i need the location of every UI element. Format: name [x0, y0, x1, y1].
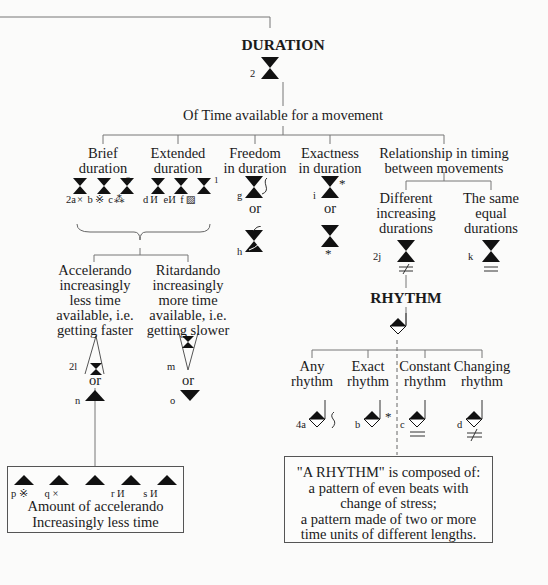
brief-letters: 2a× b※ c⁂ [66, 194, 125, 205]
triangle-row-icon [14, 474, 179, 486]
rhythm-title: RHYTHM [356, 289, 456, 307]
accelerando-or: or [80, 372, 110, 389]
changing-rhythm-letter: d [457, 419, 462, 430]
hourglass-exactness-icon [321, 176, 339, 198]
triangle-up-icon [85, 389, 105, 401]
accelerando-letter-bottom: n [75, 395, 80, 406]
rhythm-changing-icon [465, 400, 485, 442]
exact-asterisk-icon: * [385, 411, 392, 422]
exactness-or: or [315, 200, 345, 217]
ritardando-or: or [173, 372, 203, 389]
category-relationship-label: Relationship in timingbetween movements [374, 146, 514, 176]
same-letter: k [468, 251, 473, 262]
accelerando-box-text: Amount of accelerando Increasingly less … [7, 499, 184, 530]
hourglass-freedom-h-icon [245, 226, 267, 252]
category-freedom-label: Freedomin duration [215, 146, 295, 176]
rhythm-any-icon [308, 400, 342, 430]
rhythm-exact-icon [363, 400, 383, 430]
hourglass-row-icon [73, 178, 213, 194]
hourglass-equal-icon [481, 240, 501, 276]
time-available-label: Of Time available for a movement [170, 108, 396, 123]
triangle-down-icon [180, 390, 200, 402]
hourglass-icon [261, 57, 279, 79]
category-exactness-label: Exactnessin duration [290, 146, 370, 176]
duration-title: DURATION [233, 36, 333, 54]
rhythm-any-label: Anyrhythm [282, 359, 342, 389]
different-letter: 2j [373, 251, 381, 262]
hourglass-not-equal-icon [396, 240, 416, 276]
ritardando-letter-bottom: o [170, 395, 175, 406]
constant-rhythm-letter: c [400, 419, 405, 430]
rhythm-definition-text: "A RHYTHM" is composed of: a pattern of … [284, 465, 493, 543]
accelerando-label: Accelerandoincreasingly less timeavailab… [45, 263, 145, 338]
rhythm-constant-icon [408, 400, 428, 440]
ritardando-letter-top: m [167, 361, 175, 372]
hourglass-freedom-g-icon [245, 176, 269, 198]
hourglass-exactness-alt-icon [321, 225, 339, 247]
small-hourglass-ritardando-icon [182, 336, 194, 348]
same-durations-label: The same equal durations [451, 191, 531, 236]
rhythm-changing-label: Changingrhythm [448, 359, 516, 389]
exact-rhythm-letter: b [355, 419, 360, 430]
rhythm-diamond-icon [389, 313, 409, 339]
extended-superscript: 1 [214, 175, 219, 186]
freedom-or: or [240, 200, 270, 217]
rhythm-constant-label: Constantrhythm [395, 359, 455, 389]
brief-superscript: 2 [126, 175, 131, 186]
asterisk-icon: * [339, 178, 346, 189]
different-durations-label: Different increasing durations [366, 191, 446, 236]
asterisk-below-icon: * [325, 248, 332, 259]
duration-symbol-label: 2 [250, 68, 255, 79]
category-extended-label: Extendedduration [138, 146, 218, 176]
accelerando-letter-top: 2l [69, 361, 77, 372]
freedom-h-letter: h [237, 246, 242, 257]
ritardando-label: Ritardandoincreasingly more timeavailabl… [138, 263, 238, 338]
category-brief-label: Briefduration [63, 146, 143, 176]
any-rhythm-letter: 4a [296, 419, 306, 430]
extended-letters: dИ eИ f▨ [143, 194, 196, 205]
rhythm-exact-label: Exactrhythm [338, 359, 398, 389]
